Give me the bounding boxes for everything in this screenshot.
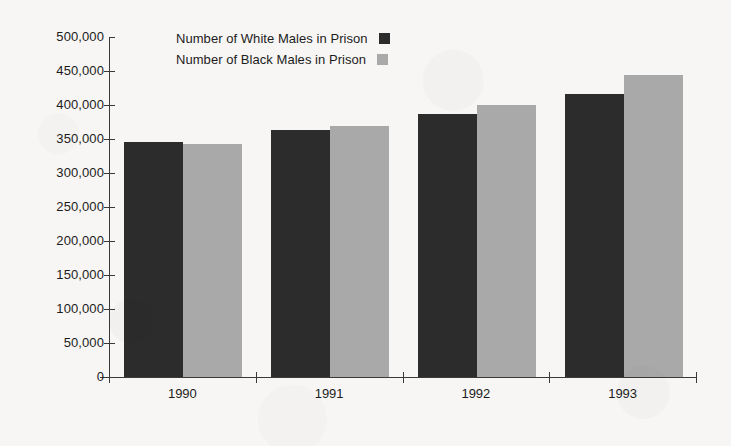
y-axis-tick-label: 350,000 bbox=[30, 131, 104, 146]
y-axis-tick-label: 200,000 bbox=[30, 233, 104, 248]
x-axis-tick bbox=[549, 372, 550, 383]
y-axis-tick bbox=[109, 37, 115, 38]
y-axis-tick-label: 400,000 bbox=[30, 97, 104, 112]
y-axis-tick bbox=[104, 343, 115, 344]
chart-legend: Number of White Males in PrisonNumber of… bbox=[176, 29, 390, 69]
y-axis-tick-label: 0 bbox=[30, 369, 104, 384]
legend-item-1: Number of White Males in Prison bbox=[176, 29, 390, 48]
bar-1991-series-2 bbox=[330, 126, 389, 377]
x-axis-label-1993: 1993 bbox=[549, 386, 696, 401]
y-axis-tick-label: 100,000 bbox=[30, 301, 104, 316]
y-axis-tick-label: 300,000 bbox=[30, 165, 104, 180]
legend-swatch-icon bbox=[377, 54, 388, 65]
x-axis-label-1991: 1991 bbox=[256, 386, 403, 401]
x-axis-tick-origin bbox=[109, 372, 110, 383]
y-axis-tick bbox=[104, 275, 115, 276]
y-axis-tick bbox=[104, 207, 115, 208]
legend-item-2: Number of Black Males in Prison bbox=[176, 50, 390, 69]
legend-swatch-icon bbox=[379, 33, 390, 44]
x-axis-tick bbox=[696, 372, 697, 383]
x-axis-tick bbox=[403, 372, 404, 383]
y-axis-tick bbox=[104, 241, 115, 242]
legend-label: Number of Black Males in Prison bbox=[176, 52, 366, 67]
legend-label: Number of White Males in Prison bbox=[176, 31, 368, 46]
bar-1990-series-2 bbox=[183, 144, 242, 377]
y-axis-tick bbox=[104, 105, 115, 106]
y-axis-tick bbox=[104, 309, 115, 310]
grouped-bar-chart: 050,000100,000150,000200,000250,000300,0… bbox=[0, 0, 731, 446]
bar-1992-series-1 bbox=[418, 114, 477, 377]
bar-1992-series-2 bbox=[477, 105, 536, 377]
x-axis-line bbox=[100, 377, 696, 378]
y-axis-tick-label: 50,000 bbox=[30, 335, 104, 350]
y-axis-tick-label: 250,000 bbox=[30, 199, 104, 214]
y-axis-tick-label: 450,000 bbox=[30, 63, 104, 78]
y-axis-tick-label: 150,000 bbox=[30, 267, 104, 282]
y-axis-tick-label: 500,000 bbox=[30, 29, 104, 44]
bar-1991-series-1 bbox=[271, 130, 330, 377]
y-axis-tick bbox=[104, 71, 115, 72]
bar-1990-series-1 bbox=[124, 142, 183, 377]
bar-1993-series-2 bbox=[624, 75, 683, 377]
bar-1993-series-1 bbox=[565, 94, 624, 377]
y-axis-tick bbox=[104, 139, 115, 140]
y-axis-tick bbox=[104, 173, 115, 174]
x-axis-tick bbox=[256, 372, 257, 383]
x-axis-label-1990: 1990 bbox=[109, 386, 256, 401]
x-axis-label-1992: 1992 bbox=[403, 386, 550, 401]
